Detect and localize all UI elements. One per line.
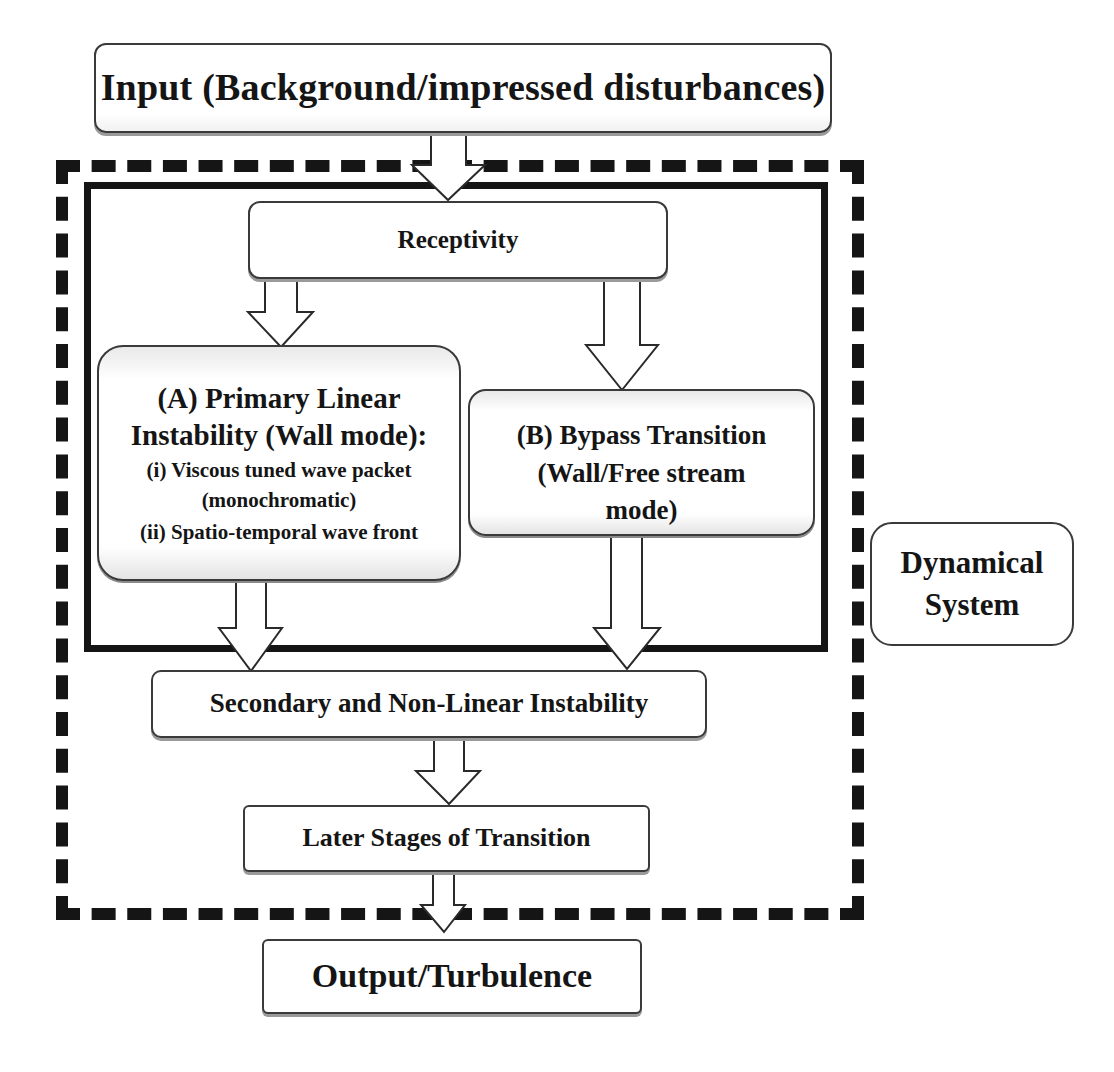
later-stages-label: Later Stages of Transition bbox=[302, 822, 590, 855]
arrow-later-to-output bbox=[421, 873, 465, 932]
input-box: Input (Background/impressed disturbances… bbox=[94, 43, 832, 133]
secondary-nonlinear-instability-box: Secondary and Non-Linear Instability bbox=[151, 670, 707, 738]
arrow-secondary-to-later bbox=[416, 738, 480, 804]
dynamical-system-line1: Dynamical bbox=[901, 542, 1044, 584]
primary-item1-line1: (i) Viscous tuned wave packet bbox=[131, 457, 427, 483]
arrow-receptivity-to-primary bbox=[248, 279, 313, 347]
bypass-line2: (Wall/Free stream bbox=[517, 455, 767, 493]
bypass-line1: (B) Bypass Transition bbox=[517, 417, 767, 455]
arrow-bypass-to-secondary bbox=[594, 535, 660, 669]
receptivity-box: Receptivity bbox=[248, 201, 668, 279]
secondary-label: Secondary and Non-Linear Instability bbox=[210, 687, 648, 721]
output-turbulence-box: Output/Turbulence bbox=[262, 939, 642, 1014]
receptivity-label: Receptivity bbox=[398, 224, 519, 255]
input-label: Input (Background/impressed disturbances… bbox=[101, 64, 826, 112]
primary-title-line2: Instability (Wall mode): bbox=[131, 417, 427, 453]
bypass-line3: mode) bbox=[517, 492, 767, 530]
arrow-input-to-receptivity bbox=[412, 132, 485, 200]
dynamical-system-line2: System bbox=[901, 584, 1044, 626]
dynamical-system-box: Dynamical System bbox=[870, 522, 1074, 646]
later-stages-box: Later Stages of Transition bbox=[243, 805, 650, 872]
primary-linear-instability-box: (A) Primary Linear Instability (Wall mod… bbox=[97, 345, 461, 581]
bypass-transition-box: (B) Bypass Transition (Wall/Free stream … bbox=[468, 389, 815, 536]
arrow-primary-to-secondary bbox=[219, 581, 282, 671]
primary-item1-line2: (monochromatic) bbox=[131, 487, 427, 513]
arrow-receptivity-to-bypass bbox=[586, 279, 658, 390]
output-label: Output/Turbulence bbox=[312, 955, 592, 998]
primary-item2: (ii) Spatio-temporal wave front bbox=[131, 519, 427, 545]
primary-title-line1: (A) Primary Linear bbox=[131, 380, 427, 416]
